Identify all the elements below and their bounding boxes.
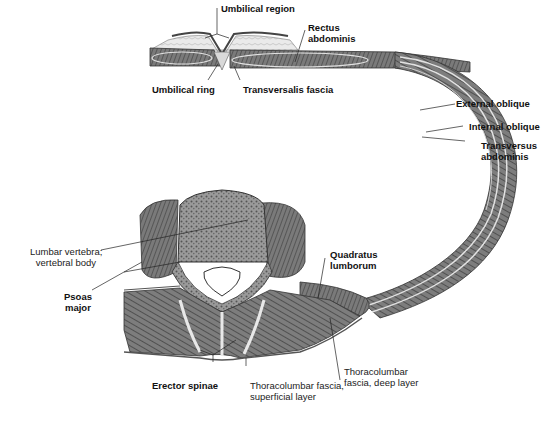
label-rectus-abdominis-1: Rectus [308,22,340,33]
label-quadratus-lumborum-2: lumborum [330,260,376,271]
label-thoracolumbar-superficial-2: superficial layer [250,391,316,402]
label-quadratus-lumborum-1: Quadratus [330,249,378,260]
lateral-abdominal-wall [360,52,517,318]
label-transversus-abdominis-1: Transversus [481,140,537,151]
label-external-oblique: External oblique [456,98,530,109]
label-psoas-major-2: major [65,302,91,313]
label-lumbar-vertebra-1: Lumbar vertebra; [30,246,96,257]
label-umbilical-ring: Umbilical ring [152,84,215,95]
label-thoracolumbar-superficial-1: Thoracolumbar fascia, [250,380,344,391]
label-transversus-abdominis-2: abdominis [481,151,529,162]
label-rectus-abdominis-2: abdominis [308,33,356,44]
label-thoracolumbar-deep-2: fascia, deep layer [344,377,418,388]
label-umbilical-region: Umbilical region [221,3,295,14]
label-lumbar-vertebra-2: vertebral body [30,257,96,268]
label-internal-oblique: Internal oblique [469,121,540,132]
anatomy-diagram [0,0,560,424]
label-erector-spinae: Erector spinae [152,380,218,391]
label-thoracolumbar-deep-1: Thoracolumbar [344,366,408,377]
label-transversalis-fascia: Transversalis fascia [243,84,333,95]
label-psoas-major-1: Psoas [64,291,92,302]
